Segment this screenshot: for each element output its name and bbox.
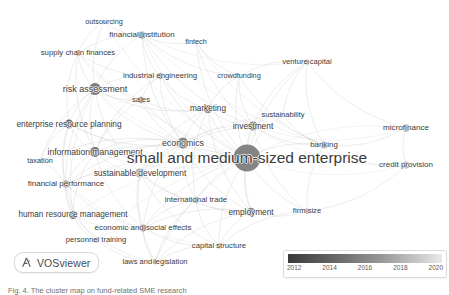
graph-node[interactable]	[402, 161, 409, 168]
graph-edge	[196, 42, 247, 158]
vosviewer-badge[interactable]: VOSviewer	[14, 252, 99, 273]
graph-node[interactable]	[135, 168, 144, 177]
graph-node[interactable]	[237, 74, 241, 78]
graph-edge	[307, 62, 406, 128]
graph-edge	[182, 143, 196, 200]
graph-edge	[73, 152, 95, 215]
graph-edge	[239, 76, 253, 126]
graph-node[interactable]	[62, 180, 69, 187]
graph-edge	[66, 143, 183, 184]
graph-node[interactable]	[234, 145, 261, 172]
legend-tick-labels: 20122014201620182020	[288, 264, 442, 275]
graph-node[interactable]	[38, 159, 42, 163]
graph-node[interactable]	[247, 208, 255, 216]
graph-edge	[93, 22, 104, 89]
graph-node[interactable]	[102, 20, 106, 24]
graph-edge	[66, 155, 247, 184]
graph-edge	[73, 215, 143, 229]
graph-node[interactable]	[140, 225, 147, 232]
graph-node[interactable]	[93, 237, 98, 242]
graph-edge	[66, 171, 140, 184]
graph-node[interactable]	[138, 31, 145, 38]
graph-node[interactable]	[402, 124, 410, 132]
graph-node[interactable]	[304, 59, 309, 64]
graph-node[interactable]	[321, 142, 328, 149]
graph-node[interactable]	[194, 40, 198, 44]
graph-edge	[95, 152, 143, 228]
graph-edge	[143, 228, 219, 247]
graph-edge	[96, 228, 143, 240]
graph-node[interactable]	[69, 211, 77, 219]
graph-node[interactable]	[248, 121, 257, 130]
graph-edge	[95, 89, 208, 111]
graph-edge	[143, 228, 155, 262]
graph-edge	[155, 200, 196, 262]
graph-edge	[143, 200, 196, 228]
graph-edge	[142, 35, 253, 126]
graph-edge	[155, 246, 219, 262]
graph-edge	[247, 126, 406, 158]
graph-node[interactable]	[178, 138, 189, 149]
legend-tick: 2020	[429, 264, 443, 271]
graph-node[interactable]	[75, 50, 81, 56]
graph-edge	[66, 89, 95, 184]
legend-tick: 2014	[322, 264, 336, 271]
graph-edge	[160, 76, 247, 158]
graph-edge	[66, 184, 143, 228]
graph-edge	[142, 35, 196, 44]
graph-node[interactable]	[89, 83, 101, 95]
graph-edge	[142, 35, 307, 65]
figure-caption: Fig. 4. The cluster map on fund-related …	[8, 286, 187, 295]
graph-edge	[76, 53, 95, 152]
graph-edge	[307, 165, 406, 211]
graph-edge	[324, 128, 406, 146]
graph-edge	[78, 53, 141, 100]
graph-node[interactable]	[90, 147, 100, 157]
graph-node[interactable]	[65, 120, 74, 129]
graph-edge	[306, 62, 324, 145]
graph-edge	[95, 152, 140, 173]
graph-edge	[247, 158, 406, 175]
vosviewer-visualization[interactable]: outsourcingfinancial institutionfintechs…	[0, 0, 449, 295]
graph-node[interactable]	[153, 260, 158, 265]
graph-edge	[78, 35, 142, 53]
legend-tick: 2012	[287, 264, 301, 271]
graph-edge	[78, 22, 104, 53]
graph-edge	[95, 89, 141, 100]
graph-edge	[141, 100, 247, 158]
graph-edge	[219, 211, 307, 246]
graph-edge	[403, 128, 406, 165]
legend-tick: 2016	[358, 264, 372, 271]
legend-tick: 2018	[393, 264, 407, 271]
graph-edge	[66, 184, 219, 246]
graph-edge	[96, 240, 155, 262]
graph-edge	[143, 209, 251, 228]
graph-node[interactable]	[304, 208, 309, 213]
graph-edge	[253, 115, 283, 126]
graph-edge	[155, 212, 251, 262]
graph-node[interactable]	[138, 97, 144, 103]
graph-edge	[196, 42, 324, 145]
graph-edge	[140, 115, 283, 173]
graph-node[interactable]	[204, 105, 212, 113]
graph-node[interactable]	[193, 197, 199, 203]
graph-edge	[141, 76, 160, 100]
graph-edge	[95, 35, 142, 89]
graph-node[interactable]	[157, 73, 163, 79]
graph-edge	[96, 158, 247, 240]
graph-edge	[138, 173, 155, 262]
graph-edge	[219, 212, 251, 246]
vosviewer-label: VOSviewer	[37, 257, 90, 269]
graph-node[interactable]	[216, 243, 222, 249]
graph-edge	[324, 145, 406, 166]
graph-edge	[239, 76, 324, 145]
graph-node[interactable]	[281, 113, 286, 118]
graph-edge	[253, 126, 307, 211]
graph-edge	[78, 53, 160, 76]
graph-edge	[78, 53, 247, 158]
graph-edge	[104, 22, 247, 158]
graph-edge	[196, 200, 219, 246]
graph-edge	[196, 42, 239, 76]
graph-edge	[104, 22, 142, 35]
graph-edge	[160, 76, 183, 143]
